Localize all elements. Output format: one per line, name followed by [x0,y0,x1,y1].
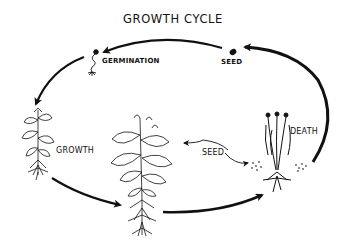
seed-icon [229,48,238,56]
label-growth: GROWTH [56,146,94,155]
arrow-growth-to-mature [52,178,120,205]
diagram-title: GROWTH CYCLE [0,12,346,26]
arrow-seed-to-ground [225,153,248,163]
germinating-seed-icon [88,50,98,76]
arrow-germination-to-growth [36,57,84,104]
arrow-mature-to-death [163,195,262,212]
mature-plant-icon [111,115,172,236]
young-plant-icon [22,108,54,180]
arrow-death-to-seed [245,47,328,162]
label-death: DEATH [290,127,318,136]
label-seed-mature: SEED [202,148,224,157]
label-seed-top: SEED [221,58,242,66]
arrow-seed-to-germination [104,40,222,52]
arrow-mature-to-seedlabel [184,140,203,143]
diagram-canvas [0,0,346,249]
growth-cycle-diagram: GROWTH CYCLE SEED GERMINATION GROWTH SEE… [0,0,346,249]
label-germination: GERMINATION [102,57,160,65]
dead-plant-icon [263,112,291,192]
